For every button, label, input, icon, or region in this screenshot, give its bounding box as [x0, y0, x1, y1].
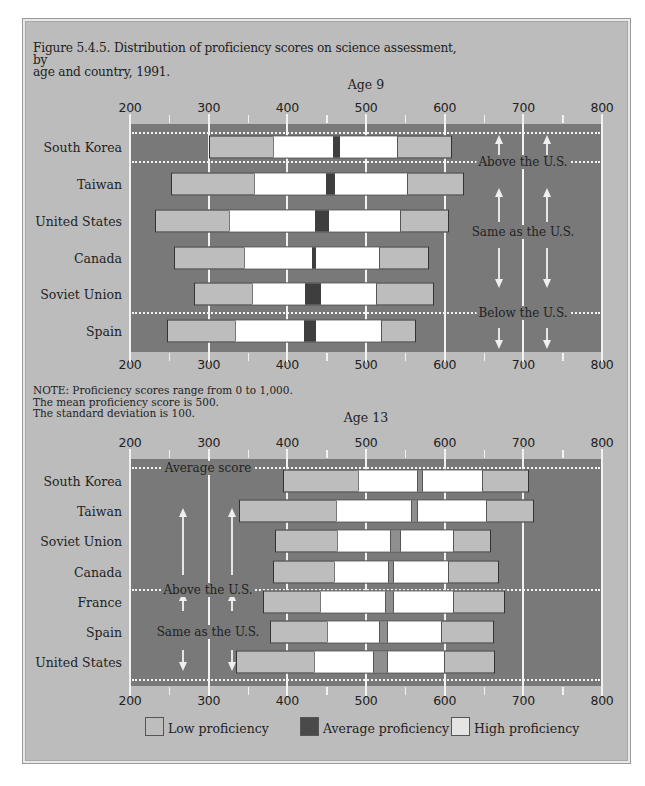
- average-proficiency-segment: [333, 137, 340, 158]
- note-line-3: The standard deviation is 100.: [33, 408, 293, 420]
- age13-top-tick-label-700: 700: [512, 435, 535, 450]
- high-proficiency-segment: [340, 137, 397, 158]
- age9-above-arrow-0-shaft: [498, 143, 500, 155]
- age9-bar-taiwan: [171, 173, 464, 196]
- age9-minor-tick-bottom-250: [169, 353, 171, 361]
- legend-label-high: High proficiency: [474, 721, 579, 736]
- high-proficiency-segment: [358, 471, 417, 492]
- age9-minor-tick-top-350: [248, 115, 250, 123]
- age13-top-tick-label-600: 600: [433, 435, 456, 450]
- high-proficiency-segment: [334, 562, 388, 583]
- legend: Low proficiency Average proficiency High…: [0, 717, 645, 741]
- age9-same-up-arrow-0-head-icon: [495, 188, 503, 197]
- average-proficiency-segment: [305, 284, 322, 305]
- age13-gridline-300: [208, 449, 210, 696]
- average-proficiency-segment: [411, 501, 418, 522]
- age13-gridline-200: [129, 449, 131, 696]
- legend-swatch-low: [145, 717, 164, 736]
- segment-divider: [441, 622, 442, 643]
- age13-top-tick-label-800: 800: [591, 435, 614, 450]
- age13-bar-south-korea: [283, 470, 528, 493]
- segment-divider: [252, 284, 253, 305]
- age13-minor-tick-top-750: [562, 450, 564, 458]
- age13-country-label: Canada: [74, 565, 122, 580]
- figure-title: Figure 5.4.5. Distribution of proficienc…: [33, 42, 473, 78]
- age13-minor-tick-bottom-550: [405, 687, 407, 695]
- segment-divider: [327, 622, 328, 643]
- segment-divider: [453, 531, 454, 552]
- segment-divider: [448, 562, 449, 583]
- segment-divider: [358, 471, 359, 492]
- age9-same-up-arrow-0-shaft: [498, 196, 500, 222]
- high-proficiency-segment: [229, 211, 315, 232]
- segment-divider: [482, 471, 483, 492]
- age13-gridline-800: [601, 449, 603, 696]
- segment-divider: [337, 531, 338, 552]
- segment-divider: [397, 137, 398, 158]
- segment-divider: [273, 137, 274, 158]
- age9-country-label: Soviet Union: [40, 287, 122, 302]
- age9-above-arrow-1-shaft: [546, 143, 548, 155]
- segment-divider: [486, 501, 487, 522]
- age9-bar-south-korea: [209, 136, 451, 159]
- age9-country-label: Canada: [74, 251, 122, 266]
- high-proficiency-segment: [244, 248, 312, 269]
- segment-divider: [314, 652, 315, 673]
- segment-divider: [254, 174, 255, 195]
- figure-title-line-2: age and country, 1991.: [33, 66, 473, 78]
- high-proficiency-segment: [394, 562, 448, 583]
- age13-minor-tick-top-550: [405, 450, 407, 458]
- high-proficiency-segment: [336, 501, 411, 522]
- age13-bar-taiwan: [239, 500, 534, 523]
- age13-minor-tick-top-450: [326, 450, 328, 458]
- age13-top-tick-label-200: 200: [119, 435, 142, 450]
- age13-above-arrow-0-head-icon: [179, 508, 187, 517]
- high-proficiency-segment: [423, 471, 482, 492]
- age9-country-label: Spain: [86, 324, 122, 339]
- legend-item-high: High proficiency: [451, 717, 579, 736]
- age13-bar-france: [263, 591, 505, 614]
- age13-annotation-above: Above the U.S.: [161, 583, 254, 597]
- age9-same-down-arrow-0-shaft: [498, 248, 500, 280]
- age13-above-arrow-1-shaft: [231, 516, 233, 575]
- age13-country-label: Spain: [86, 625, 122, 640]
- high-proficiency-segment: [320, 592, 385, 613]
- segment-divider: [229, 211, 230, 232]
- segment-divider: [400, 211, 401, 232]
- age13-top-tick-label-400: 400: [276, 435, 299, 450]
- age13-minor-tick-bottom-250: [169, 687, 171, 695]
- age13-same-down-arrow-1-head-icon: [228, 662, 236, 671]
- age13-minor-tick-bottom-350: [248, 687, 250, 695]
- legend-label-average: Average proficiency: [323, 721, 449, 736]
- age13-minor-tick-top-350: [248, 450, 250, 458]
- segment-divider: [453, 592, 454, 613]
- legend-label-low: Low proficiency: [168, 721, 269, 736]
- legend-swatch-average: [300, 717, 319, 736]
- high-proficiency-segment: [327, 622, 379, 643]
- high-proficiency-segment: [316, 321, 381, 342]
- age9-minor-tick-bottom-450: [326, 353, 328, 361]
- age9-top-tick-label-400: 400: [276, 100, 299, 115]
- age13-annotation-average: Average score: [163, 461, 254, 475]
- age13-minor-tick-bottom-750: [562, 687, 564, 695]
- high-proficiency-segment: [329, 211, 400, 232]
- age9-same-down-arrow-1-head-icon: [543, 279, 551, 288]
- high-proficiency-segment: [388, 652, 444, 673]
- age9-minor-tick-bottom-550: [405, 353, 407, 361]
- age13-group-divider-2: [132, 679, 600, 681]
- age9-minor-tick-bottom-650: [484, 353, 486, 361]
- average-proficiency-segment: [326, 174, 335, 195]
- segment-divider: [244, 248, 245, 269]
- legend-item-average: Average proficiency: [300, 717, 449, 736]
- average-proficiency-segment: [379, 622, 388, 643]
- segment-divider: [379, 248, 380, 269]
- segment-divider: [235, 321, 236, 342]
- age13-bar-united-states: [236, 651, 495, 674]
- high-proficiency-segment: [235, 321, 304, 342]
- age9-top-tick-label-800: 800: [591, 100, 614, 115]
- age9-bar-spain: [167, 320, 416, 343]
- average-proficiency-segment: [304, 321, 316, 342]
- high-proficiency-segment: [401, 531, 453, 552]
- age9-minor-tick-top-750: [562, 115, 564, 123]
- age9-same-up-arrow-1-head-icon: [543, 188, 551, 197]
